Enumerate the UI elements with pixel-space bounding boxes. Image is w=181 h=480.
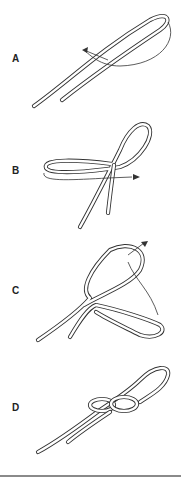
- arrow-icon: [133, 174, 140, 180]
- arrow-icon: [82, 47, 88, 53]
- step-c-illustration: [38, 241, 162, 340]
- step-d-illustration: [38, 368, 168, 452]
- bottom-divider: [0, 475, 181, 477]
- step-b-illustration: [44, 124, 150, 227]
- knot-diagram: [0, 0, 181, 480]
- step-a-illustration: [34, 16, 171, 106]
